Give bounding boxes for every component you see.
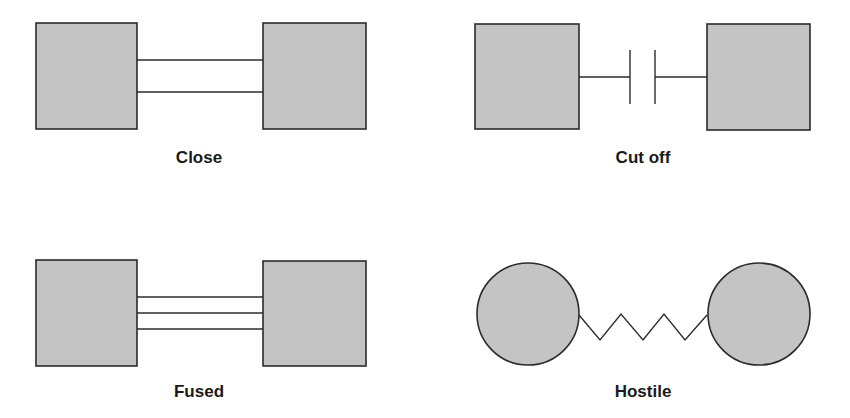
panel-cut-off xyxy=(475,24,810,130)
label-close: Close xyxy=(176,149,222,166)
node-right-square xyxy=(707,24,810,130)
panel-fused xyxy=(36,260,366,366)
label-fused: Fused xyxy=(174,383,224,400)
node-right-square xyxy=(263,261,366,366)
relationship-diagram xyxy=(0,0,850,418)
label-hostile: Hostile xyxy=(615,383,672,400)
panel-hostile xyxy=(477,263,810,365)
node-left-circle xyxy=(477,263,579,365)
connector-zigzag xyxy=(579,314,707,340)
node-right-circle xyxy=(708,263,810,365)
node-left-square xyxy=(475,24,579,129)
panel-close xyxy=(36,23,366,129)
label-cut-off: Cut off xyxy=(616,149,671,166)
node-right-square xyxy=(263,23,366,129)
node-left-square xyxy=(36,23,137,129)
node-left-square xyxy=(36,260,137,366)
